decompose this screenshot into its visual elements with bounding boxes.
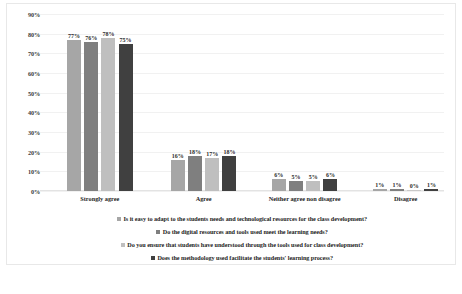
legend-label: Is it easy to adapt to the students need… (123, 215, 367, 222)
bar[interactable]: 1% (373, 189, 387, 191)
legend-item-3[interactable]: Does the methodology used facilitate the… (40, 251, 444, 264)
bar-value-label: 6% (274, 172, 283, 178)
bar-slot: 75% (119, 14, 133, 191)
bar[interactable]: 78% (101, 38, 115, 191)
bar[interactable]: 18% (222, 156, 236, 191)
legend-label: Do the digital resources and tools used … (163, 228, 328, 235)
legend-swatch-icon (156, 230, 160, 234)
legend-item-1[interactable]: Do the digital resources and tools used … (40, 225, 444, 238)
bar[interactable]: 6% (323, 179, 337, 191)
gridline (40, 191, 444, 192)
x-axis-category-label: Strongly agree (80, 195, 119, 202)
y-axis-tick-60: 60% (28, 70, 40, 77)
bar-value-label: 1% (393, 182, 402, 188)
legend-swatch-icon (121, 243, 125, 247)
y-axis-tick-40: 40% (28, 109, 40, 116)
bar-slot: 78% (101, 14, 115, 191)
bar-slot: 16% (171, 14, 185, 191)
bar-value-label: 75% (120, 37, 132, 43)
bar-slot: 5% (289, 14, 303, 191)
x-axis-category-label: Neither agree non disagree (269, 195, 341, 202)
bar[interactable]: 17% (205, 158, 219, 191)
bar-value-label: 76% (85, 35, 97, 41)
legend-swatch-icon (151, 256, 155, 260)
legend-swatch-icon (117, 217, 121, 221)
bar-slot: 1% (424, 14, 438, 191)
y-axis-tick-30: 30% (28, 129, 40, 136)
bar-slot: 18% (222, 14, 236, 191)
bar-group-2: 6%5%5%6%Neither agree non disagree (267, 14, 343, 191)
bar[interactable]: 6% (272, 179, 286, 191)
bar[interactable]: 5% (289, 181, 303, 191)
bar[interactable]: 77% (67, 40, 81, 191)
x-axis-category-label: Disagree (394, 195, 417, 202)
bar-group-3: 1%1%0%1%Disagree (368, 14, 444, 191)
bar[interactable]: 1% (424, 189, 438, 191)
chart-legend: Is it easy to adapt to the students need… (40, 212, 444, 264)
bar-value-label: 18% (223, 149, 235, 155)
bar-slot: 77% (67, 14, 81, 191)
bar-slot: 76% (84, 14, 98, 191)
bar[interactable]: 5% (306, 181, 320, 191)
bar-slot: 17% (205, 14, 219, 191)
bar[interactable]: 76% (84, 42, 98, 191)
y-axis-tick-90: 90% (28, 11, 40, 18)
bar-value-label: 78% (102, 31, 114, 37)
legend-label: Does the methodology used facilitate the… (157, 254, 333, 261)
bar[interactable]: 1% (390, 189, 404, 191)
plot-area: 77%76%78%75%Strongly agree16%18%17%18%Ag… (40, 14, 444, 191)
y-axis-tick-50: 50% (28, 89, 40, 96)
y-axis-tick-10: 10% (28, 168, 40, 175)
bar-value-label: 0% (410, 183, 419, 189)
y-axis-tick-80: 80% (28, 30, 40, 37)
legend-item-0[interactable]: Is it easy to adapt to the students need… (40, 212, 444, 225)
bar-slot: 0% (407, 14, 421, 191)
y-axis-tick-20: 20% (28, 148, 40, 155)
bar-value-label: 18% (189, 149, 201, 155)
y-axis-tick-70: 70% (28, 50, 40, 57)
bar-group-1: 16%18%17%18%Agree (166, 14, 242, 191)
bar-slot: 18% (188, 14, 202, 191)
bar-slot: 1% (390, 14, 404, 191)
legend-item-2[interactable]: Do you ensure that students have underst… (40, 238, 444, 251)
x-axis-category-label: Agree (196, 195, 212, 202)
bar-slot: 6% (272, 14, 286, 191)
bar-value-label: 6% (326, 172, 335, 178)
bar-value-label: 1% (427, 182, 436, 188)
bar-slot: 5% (306, 14, 320, 191)
bar[interactable]: 0% (407, 190, 421, 191)
bar-value-label: 17% (206, 151, 218, 157)
chart-container: 0%10%20%30%40%50%60%70%80%90% 77%76%78%7… (0, 0, 462, 294)
bar-group-0: 77%76%78%75%Strongly agree (62, 14, 138, 191)
bar-value-label: 5% (309, 174, 318, 180)
bar-value-label: 5% (292, 174, 301, 180)
y-axis-labels: 0%10%20%30%40%50%60%70%80%90% (6, 14, 40, 191)
bar-value-label: 16% (172, 153, 184, 159)
bar[interactable]: 75% (119, 44, 133, 192)
bar-value-label: 1% (375, 182, 384, 188)
bar-slot: 1% (373, 14, 387, 191)
legend-label: Do you ensure that students have underst… (127, 241, 363, 248)
bar[interactable]: 16% (171, 160, 185, 191)
bar-value-label: 77% (68, 33, 80, 39)
y-axis-tick-0: 0% (31, 188, 40, 195)
bar[interactable]: 18% (188, 156, 202, 191)
bar-slot: 6% (323, 14, 337, 191)
